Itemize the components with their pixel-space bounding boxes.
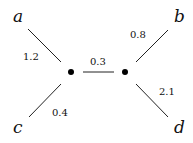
leaf-label-a: a — [13, 6, 23, 26]
weight-b: 0.8 — [130, 29, 146, 40]
leaf-label-d: d — [174, 117, 185, 137]
internal-node-left — [68, 69, 74, 75]
phylogenetic-tree: a b c d 1.2 0.3 0.8 2.1 0.4 — [0, 0, 193, 143]
weight-d: 2.1 — [159, 86, 175, 97]
weight-internal: 0.3 — [90, 56, 106, 67]
weight-a: 1.2 — [23, 51, 39, 62]
leaf-label-c: c — [13, 117, 23, 137]
internal-node-right — [122, 69, 128, 75]
weight-c: 0.4 — [52, 107, 68, 118]
leaf-label-b: b — [174, 6, 185, 26]
